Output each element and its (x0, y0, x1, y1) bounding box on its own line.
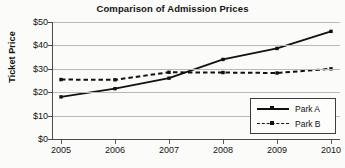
x-tick-label: 2010 (321, 145, 341, 155)
data-point-marker (275, 71, 278, 74)
y-tick-label: $50 (33, 17, 48, 27)
data-point-marker (113, 78, 116, 81)
legend-swatch-dashed-line-icon (255, 118, 291, 130)
y-tick-label: $0 (38, 134, 48, 144)
x-tick-label: 2006 (105, 145, 125, 155)
x-tick-mark (169, 140, 170, 144)
x-tick-mark (61, 140, 62, 144)
data-point-marker (59, 95, 62, 98)
data-point-marker (329, 30, 332, 33)
x-tick-mark (277, 140, 278, 144)
chart-title: Comparison of Admission Prices (0, 3, 345, 14)
data-point-marker (275, 47, 278, 50)
x-tick-mark (115, 140, 116, 144)
y-tick-label: $30 (33, 64, 48, 74)
legend-label-park-a: Park A (295, 104, 320, 114)
data-point-marker (59, 78, 62, 81)
data-point-marker (167, 71, 170, 74)
y-axis-line (52, 22, 53, 140)
x-axis-line (52, 139, 340, 140)
legend-item-park-b[interactable]: Park B (251, 117, 335, 130)
gridline (52, 45, 340, 46)
y-tick-label: $20 (33, 87, 48, 97)
x-tick-label: 2007 (159, 145, 179, 155)
legend-swatch-solid-line-icon (255, 103, 291, 115)
chart-figure: Comparison of Admission Prices Ticket Pr… (0, 0, 345, 168)
data-point-marker (221, 71, 224, 74)
x-tick-label: 2005 (51, 145, 71, 155)
data-point-marker (167, 76, 170, 79)
series-line-park-a (61, 31, 331, 97)
legend-item-park-a[interactable]: Park A (251, 102, 335, 115)
x-tick-mark (223, 140, 224, 144)
y-tick-label: $40 (33, 40, 48, 50)
y-axis-tick-labels: $0$10$20$30$40$50 (0, 22, 48, 140)
x-tick-label: 2008 (213, 145, 233, 155)
series-line-park-b (61, 69, 331, 80)
y-tick-label: $10 (33, 111, 48, 121)
legend-label-park-b: Park B (295, 119, 321, 129)
x-tick-mark (331, 140, 332, 144)
x-tick-label: 2009 (267, 145, 287, 155)
gridline (52, 22, 340, 23)
gridline (52, 69, 340, 70)
data-point-marker (221, 58, 224, 61)
chart-legend: Park A Park B (250, 98, 336, 134)
data-point-marker (113, 87, 116, 90)
gridline (52, 92, 340, 93)
